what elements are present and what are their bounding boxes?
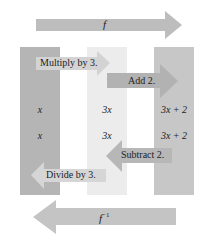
inverse-superscript: −1 <box>102 211 109 219</box>
output-value-2: 3x + 2 <box>144 130 204 141</box>
multiply-step-label: Multiply by 3. <box>40 57 98 68</box>
forward-function-label: f <box>103 18 106 30</box>
subtract-step-label: Subtract 2. <box>121 149 164 160</box>
step-arrows <box>0 0 210 238</box>
middle-value-1: 3x <box>77 104 137 115</box>
middle-value-2: 3x <box>77 130 137 141</box>
input-value-1: x <box>10 104 70 115</box>
input-value-2: x <box>10 130 70 141</box>
divide-step-label: Divide by 3. <box>46 169 96 180</box>
inverse-function-label: f−1 <box>99 211 110 224</box>
output-value-1: 3x + 2 <box>144 104 204 115</box>
add-step-label: Add 2. <box>128 75 155 86</box>
